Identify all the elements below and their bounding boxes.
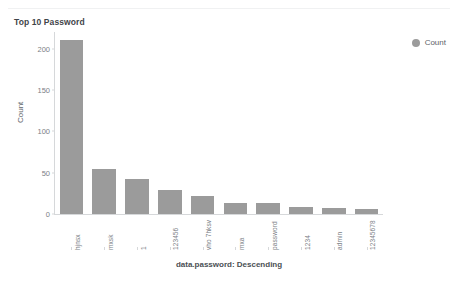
x-axis-title: data.password: Descending xyxy=(0,260,458,269)
x-axis-tick-mark xyxy=(235,247,236,250)
x-axis-tick-label: mxa xyxy=(238,237,245,250)
y-axis-tick-mark xyxy=(52,131,55,132)
y-axis-tick-mark xyxy=(52,172,55,173)
legend-item-label: Count xyxy=(425,38,446,47)
y-axis-tick-mark xyxy=(52,48,55,49)
x-axis-tick-mark xyxy=(104,247,105,250)
page-title: Top 10 Password xyxy=(14,17,85,27)
x-axis-line xyxy=(54,214,383,215)
x-axis-tick-mark xyxy=(367,247,368,250)
x-axis-tick-label: 123456 xyxy=(172,228,179,250)
x-axis-tick-label: hjnsx xyxy=(74,234,81,250)
chart-legend[interactable]: Count xyxy=(412,38,446,47)
bar[interactable] xyxy=(256,203,280,214)
bar[interactable] xyxy=(355,209,379,214)
x-axis-tick-label: password xyxy=(271,221,278,250)
panel-top-divider xyxy=(8,8,450,9)
x-axis-tick-label: mxsk xyxy=(107,234,114,250)
chart-panel: Top 10 Password Count Count data.passwor… xyxy=(0,0,458,286)
x-axis-tick-label: 1234 xyxy=(304,235,311,250)
x-axis-tick-mark xyxy=(268,247,269,250)
bar[interactable] xyxy=(289,207,313,214)
bar[interactable] xyxy=(60,40,84,214)
x-axis-tick-mark xyxy=(71,247,72,250)
y-axis-title: Count xyxy=(16,102,25,123)
x-axis-tick-label: vho 7hksv xyxy=(205,220,212,250)
y-axis-tick-mark xyxy=(52,89,55,90)
bar[interactable] xyxy=(322,208,346,214)
x-axis-tick-mark xyxy=(301,247,302,250)
bar[interactable] xyxy=(224,203,248,214)
x-axis-tick-mark xyxy=(203,247,204,250)
bar[interactable] xyxy=(92,169,116,214)
x-axis-tick-label: 1 xyxy=(140,246,147,250)
x-axis-tick-mark xyxy=(334,247,335,250)
bar[interactable] xyxy=(158,190,182,214)
x-axis-tick-label: admin xyxy=(336,232,343,250)
y-axis-tick-mark xyxy=(52,214,55,215)
x-axis-tick-label: 12345678 xyxy=(369,220,376,250)
bar[interactable] xyxy=(125,179,149,214)
x-axis-tick-mark xyxy=(137,247,138,250)
plot-area: 050100150200hjnsxmxsk1123456vho 7hksvmxa… xyxy=(55,32,383,214)
x-axis-tick-mark xyxy=(170,247,171,250)
bar[interactable] xyxy=(191,196,215,214)
legend-count-swatch-icon xyxy=(412,39,420,47)
